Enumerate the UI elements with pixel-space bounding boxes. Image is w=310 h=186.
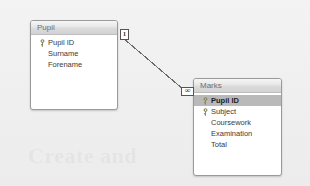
key-icon-slot (200, 95, 210, 106)
table-title[interactable]: Marks (194, 79, 281, 93)
key-icon-slot (200, 106, 210, 117)
primary-key-icon (202, 97, 209, 105)
primary-key-icon (202, 108, 209, 116)
field-list: Pupil IDSubjectCourseworkExaminationTota… (194, 93, 281, 150)
field-label: Pupil ID (47, 37, 74, 48)
field-label: Subject (210, 106, 236, 117)
field-icon-slot (37, 59, 47, 70)
field-label: Surname (47, 48, 78, 59)
field-icon-slot (200, 117, 210, 128)
field-row[interactable]: Total (194, 139, 281, 150)
table-box-pupil[interactable]: PupilPupil IDSurnameForename (30, 20, 118, 110)
field-icon-slot (200, 139, 210, 150)
field-row[interactable]: Examination (194, 128, 281, 139)
field-label: Coursework (210, 117, 251, 128)
field-row[interactable]: Forename (31, 59, 117, 70)
primary-key-icon (39, 39, 46, 47)
field-row[interactable]: Pupil ID (31, 37, 117, 48)
field-icon-slot (37, 48, 47, 59)
table-title[interactable]: Pupil (31, 21, 117, 35)
relationship-line[interactable] (123, 38, 184, 90)
field-label: Pupil ID (210, 95, 239, 106)
cardinality-one-marker: 1 (120, 29, 129, 40)
field-label: Total (210, 139, 227, 150)
key-icon-slot (37, 37, 47, 48)
field-row[interactable]: Coursework (194, 117, 281, 128)
field-row[interactable]: Subject (194, 106, 281, 117)
field-row[interactable]: Surname (31, 48, 117, 59)
cardinality-many-marker: ∞ (181, 87, 194, 96)
field-label: Examination (210, 128, 252, 139)
field-list: Pupil IDSurnameForename (31, 35, 117, 70)
relationships-canvas[interactable]: Create and 1 ∞ PupilPupil IDSurnameForen… (0, 0, 310, 186)
field-row[interactable]: Pupil ID (194, 95, 281, 106)
field-label: Forename (47, 59, 82, 70)
field-icon-slot (200, 128, 210, 139)
table-box-marks[interactable]: MarksPupil IDSubjectCourseworkExaminatio… (193, 78, 282, 176)
